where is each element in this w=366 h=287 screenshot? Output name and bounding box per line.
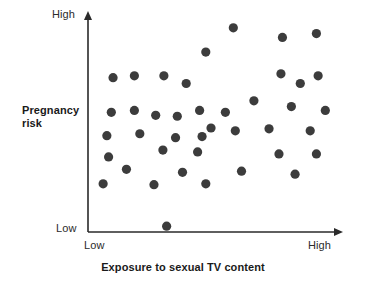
- data-point: [287, 102, 296, 111]
- data-point: [107, 108, 116, 117]
- data-point: [178, 168, 187, 177]
- y-axis-low-tick-label: Low: [56, 222, 76, 234]
- data-point: [201, 47, 210, 56]
- data-point: [231, 126, 240, 135]
- data-point: [314, 71, 323, 80]
- data-point: [171, 133, 180, 142]
- data-point: [162, 222, 171, 231]
- data-point: [197, 132, 206, 141]
- data-point: [296, 79, 305, 88]
- data-point: [104, 152, 113, 161]
- data-point: [206, 123, 215, 132]
- x-axis-title: Exposure to sexual TV content: [0, 261, 366, 273]
- data-point: [173, 112, 182, 121]
- data-point: [264, 124, 273, 133]
- data-point: [201, 179, 210, 188]
- data-point: [290, 170, 299, 179]
- data-point: [135, 129, 144, 138]
- y-axis-high-tick-label: High: [52, 8, 75, 20]
- axes-group: [84, 11, 343, 236]
- data-point: [193, 147, 202, 156]
- data-point: [321, 106, 330, 115]
- data-point: [151, 111, 160, 120]
- scatter-plot-figure: High Low Low High Pregnancy risk Exposur…: [0, 0, 366, 287]
- data-points-group: [99, 23, 330, 231]
- data-point: [122, 165, 131, 174]
- x-axis-arrowhead: [334, 228, 343, 236]
- data-point: [278, 33, 287, 42]
- data-point: [306, 126, 315, 135]
- x-axis-low-tick-label: Low: [84, 239, 104, 251]
- data-point: [312, 149, 321, 158]
- data-point: [158, 145, 167, 154]
- data-point: [130, 71, 139, 80]
- data-point: [130, 106, 139, 115]
- y-axis-arrowhead: [84, 11, 92, 20]
- data-point: [159, 71, 168, 80]
- data-point: [276, 69, 285, 78]
- data-point: [249, 96, 258, 105]
- data-point: [221, 108, 230, 117]
- data-point: [149, 180, 158, 189]
- data-point: [274, 149, 283, 158]
- data-point: [102, 131, 111, 140]
- data-point: [182, 79, 191, 88]
- y-axis-title: Pregnancy risk: [22, 104, 82, 130]
- x-axis-high-tick-label: High: [308, 239, 331, 251]
- data-point: [99, 179, 108, 188]
- data-point: [195, 106, 204, 115]
- data-point: [312, 29, 321, 38]
- data-point: [229, 23, 238, 32]
- data-point: [108, 73, 117, 82]
- data-point: [237, 167, 246, 176]
